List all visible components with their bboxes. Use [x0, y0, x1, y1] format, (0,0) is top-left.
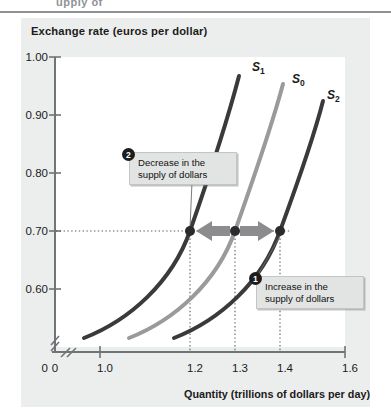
callout-decrease-supply[interactable]: Decrease in the supply of dollars — [129, 152, 237, 185]
callout-1-badge: 1 — [249, 272, 262, 285]
equilibrium-dot-s0 — [230, 226, 240, 236]
callout-1-line-1: Increase in the — [265, 281, 357, 293]
supply-curve-s1 — [84, 76, 239, 338]
callout-increase-supply[interactable]: Increase in the supply of dollars — [256, 276, 364, 309]
chart-graphics — [0, 0, 391, 417]
shift-arrow-right — [240, 221, 274, 241]
callout-2-line-2: supply of dollars — [138, 169, 230, 181]
callout-2-badge: 2 — [122, 148, 135, 161]
shift-arrow-left — [196, 221, 230, 241]
equilibrium-dot-s2 — [275, 226, 285, 236]
curve-label-s0: S0 — [292, 72, 305, 88]
curve-label-s1: S1 — [252, 60, 265, 76]
curve-label-s2: S2 — [327, 88, 340, 104]
callout-2-line-1: Decrease in the — [138, 157, 230, 169]
equilibrium-dot-s1 — [185, 226, 195, 236]
callout-1-line-2: supply of dollars — [265, 293, 357, 305]
callout-1-leader-line — [258, 234, 281, 275]
